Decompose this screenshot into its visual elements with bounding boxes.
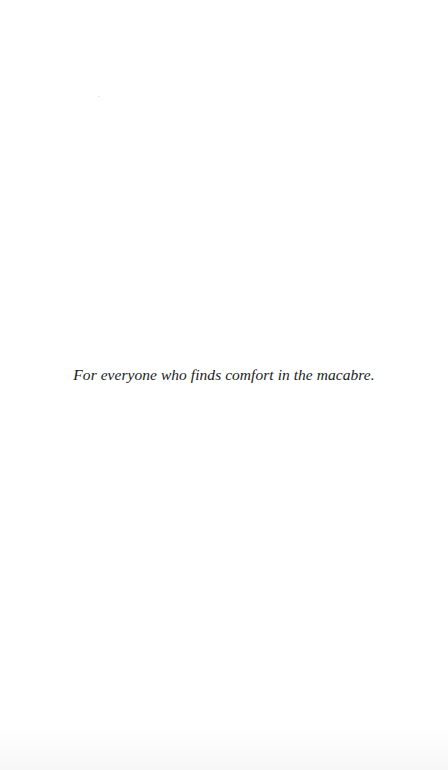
book-page: For everyone who finds comfort in the ma…	[0, 0, 448, 770]
dedication-text: For everyone who finds comfort in the ma…	[0, 365, 448, 385]
paper-speck	[98, 96, 100, 97]
